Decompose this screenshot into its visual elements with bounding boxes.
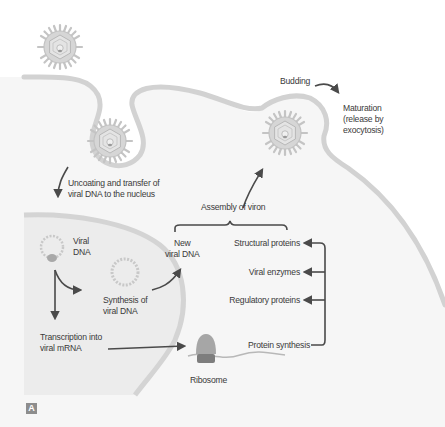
label-new-dna: New [174, 238, 191, 249]
label-synthesis: Synthesis of [103, 295, 147, 306]
budding-arrow [315, 84, 338, 92]
label-regulatory-proteins: Regulatory proteins [229, 295, 300, 306]
label-maturation: Maturation [343, 103, 382, 114]
label-structural-proteins: Structural proteins [234, 238, 300, 249]
ribosome-icon [196, 334, 216, 363]
label-uncoating: Uncoating and transfer of [68, 178, 160, 189]
label-synthesis-2: viral DNA [103, 306, 138, 317]
label-viral-dna-2: DNA [73, 247, 91, 258]
label-uncoating-2: viral DNA to the nucleus [68, 189, 155, 200]
label-protein-synthesis: Protein synthesis [248, 340, 310, 351]
label-ribosome: Ribosome [190, 375, 227, 386]
label-new-dna-2: viral DNA [165, 249, 200, 260]
label-assembly: Assembly of viron [201, 202, 265, 213]
label-transcription: Transcription into [40, 332, 102, 343]
label-maturation-2: (release by [343, 114, 383, 125]
panel-label: A [26, 403, 37, 414]
label-transcription-2: viral mRNA [40, 343, 81, 354]
label-viral-enzymes: Viral enzymes [249, 267, 300, 278]
virus-attaching [38, 25, 82, 69]
virus-assembled [263, 111, 307, 155]
label-viral-dna: Viral [73, 236, 89, 247]
label-maturation-3: exocytosis) [343, 125, 384, 136]
viral-replication-diagram: Budding Maturation (release by exocytosi… [0, 0, 445, 427]
virus-endocytosed [88, 119, 132, 163]
label-budding: Budding [280, 76, 310, 87]
